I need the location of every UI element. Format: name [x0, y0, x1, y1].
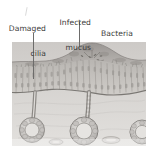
label-damaged-cilia-line2: cilia [1, 50, 46, 58]
label-infected-mucus-line1: Infected [47, 19, 91, 27]
label-bacteria: Bacteria [101, 13, 149, 55]
figure-root: Damaged cilia Infected mucus Bacteria [0, 0, 152, 149]
label-damaged-cilia: Damaged cilia [1, 8, 46, 75]
gland-acinus-left [20, 118, 45, 143]
bottom-fade [12, 139, 146, 146]
label-damaged-cilia-line1: Damaged [1, 25, 46, 33]
label-infected-mucus-line2: mucus [47, 44, 91, 52]
label-bacteria-line1: Bacteria [101, 30, 149, 38]
label-infected-mucus: Infected mucus [47, 2, 91, 69]
